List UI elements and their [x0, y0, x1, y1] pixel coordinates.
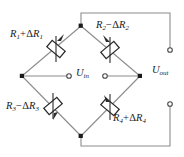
voltage-label-u-in: Uin [76, 68, 89, 80]
resistor-label-r4: R4+ΔR4 [113, 113, 146, 125]
terminal-uin-right[interactable] [103, 74, 108, 79]
r1-delta-symbol: Δ [26, 28, 33, 39]
r2-delta-symbol: Δ [112, 19, 119, 30]
resistor-r2-symbol [101, 35, 119, 63]
wire-bottom-to-output [81, 104, 170, 146]
terminal-uout-top[interactable] [168, 48, 173, 53]
resistor-label-r1: R1+ΔR1 [10, 29, 43, 41]
wheatstone-bridge-figure: R1+ΔR1 R2−ΔR2 R3−ΔR3 R4+ΔR4 Uin Uout [0, 0, 184, 157]
node-top [79, 24, 83, 28]
uin-subscript: in [84, 72, 89, 79]
r3-delta-symbol: Δ [22, 100, 29, 111]
uout-subscript: out [160, 69, 169, 76]
resistor-r1-symbol [47, 34, 65, 62]
resistor-r3-symbol [44, 93, 62, 120]
uin-base: U [76, 67, 84, 78]
circuit-schematic [0, 0, 184, 157]
node-left [20, 74, 24, 78]
r4-delta-subscript: 4 [142, 117, 145, 124]
r4-delta-symbol: Δ [129, 112, 136, 123]
terminal-uout-bottom[interactable] [168, 102, 173, 107]
node-bottom [79, 134, 83, 138]
r1-delta-subscript: 1 [39, 33, 42, 40]
output-wiring [81, 13, 170, 146]
voltage-label-u-out: Uout [152, 65, 168, 77]
node-right [138, 74, 142, 78]
uout-base: U [152, 64, 160, 75]
resistor-label-r2: R2−ΔR2 [96, 20, 129, 32]
resistor-label-r3: R3−ΔR3 [6, 101, 39, 113]
r3-delta-subscript: 3 [35, 105, 38, 112]
terminal-uin-left[interactable] [67, 74, 72, 79]
r2-delta-subscript: 2 [125, 24, 128, 31]
